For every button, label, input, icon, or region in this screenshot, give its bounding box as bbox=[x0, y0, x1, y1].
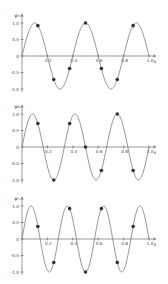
chart-3-y-tick-label: 0 bbox=[16, 237, 19, 242]
chart-1-y-tick-label: 1.0 bbox=[12, 21, 19, 26]
chart-3-x-tick-label: 0.8 bbox=[121, 241, 128, 246]
chart-2-x-tick-label: 0.4 bbox=[70, 149, 77, 154]
chart-1-x-label: x bbox=[154, 58, 157, 64]
chart-1-data-point bbox=[84, 21, 88, 25]
chart-2-data-point bbox=[115, 112, 119, 116]
chart-panel-1: 1.00.50-0.5-1.0ψ₅0.20.40.60.81.0x1.00.50… bbox=[0, 0, 168, 284]
chart-2-y-tick-label: 1.0 bbox=[12, 112, 19, 117]
chart-3-x-tick-label: 0.6 bbox=[96, 241, 103, 246]
chart-3-data-point bbox=[115, 261, 119, 265]
chart-3-y-tick-label: -1.0 bbox=[11, 270, 20, 275]
chart-1-y-label: ψ₅ bbox=[14, 12, 20, 19]
chart-2-x-label: x bbox=[154, 149, 157, 155]
chart-3-y-tick-label: -0.5 bbox=[11, 253, 20, 258]
chart-1-data-point bbox=[36, 24, 40, 28]
chart-1-y-tick-label: 0 bbox=[16, 54, 19, 59]
chart-2-x-tick-label: 0.6 bbox=[96, 149, 103, 154]
chart-2-x-tick-label: 0.2 bbox=[45, 149, 52, 154]
chart-3-data-point bbox=[52, 261, 56, 265]
chart-2-y-label: ψ₆ bbox=[14, 103, 20, 110]
chart-3-y-tick-label: 0.5 bbox=[12, 220, 19, 225]
chart-2-data-point bbox=[36, 122, 40, 126]
chart-1-y-tick-label: -1.0 bbox=[11, 87, 20, 92]
chart-2-x-tick-label: 0.8 bbox=[121, 149, 128, 154]
chart-3-x-tick-label: 0.2 bbox=[45, 241, 52, 246]
chart-1-data-point bbox=[52, 78, 56, 82]
chart-2-data-point bbox=[100, 169, 104, 173]
figure: 1.00.50-0.5-1.0ψ₅0.20.40.60.81.0x1.00.50… bbox=[0, 0, 168, 284]
chart-2-data-point bbox=[68, 122, 72, 126]
chart-2-y-tick-label: -0.5 bbox=[11, 161, 20, 166]
chart-3-x-tick-label: 0.4 bbox=[70, 241, 77, 246]
chart-2-y-tick-label: -1.0 bbox=[11, 178, 20, 183]
chart-3-data-point bbox=[84, 270, 88, 274]
chart-3-data-point bbox=[131, 225, 135, 229]
chart-1-data-point bbox=[100, 67, 104, 71]
chart-1-data-point bbox=[115, 78, 119, 82]
chart-2-data-point bbox=[52, 178, 56, 182]
chart-1-data-point bbox=[68, 67, 72, 71]
chart-2-data-point bbox=[131, 169, 135, 173]
chart-2-y-tick-label: 0 bbox=[16, 145, 19, 150]
chart-1-y-tick-label: -0.5 bbox=[11, 70, 20, 75]
chart-3-data-point bbox=[36, 225, 40, 229]
chart-3-data-point bbox=[100, 207, 104, 211]
chart-3-data-point bbox=[68, 207, 72, 211]
chart-1-data-point bbox=[131, 24, 135, 28]
chart-2-data-point bbox=[84, 145, 88, 149]
chart-3-x-label: x bbox=[154, 241, 157, 247]
chart-2-y-tick-label: 0.5 bbox=[12, 128, 19, 133]
chart-3-y-label: ψ₇ bbox=[14, 195, 20, 202]
chart-3-y-tick-label: 1.0 bbox=[12, 204, 19, 209]
chart-1-y-tick-label: 0.5 bbox=[12, 37, 19, 42]
